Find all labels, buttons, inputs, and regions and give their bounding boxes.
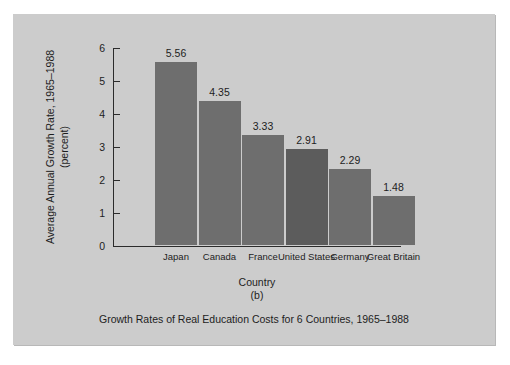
y-axis-tick-mark (114, 246, 120, 247)
bar: 1.48 (373, 196, 415, 245)
y-axis-title-line2: (percent) (58, 126, 70, 168)
panel-letter: (b) (113, 289, 401, 301)
bar-value-label: 2.29 (340, 154, 360, 166)
bar: 2.29 (329, 169, 371, 245)
y-axis-title: Average Annual Growth Rate, 1965–1988 (p… (37, 48, 77, 246)
plot-area: 0123456 5.564.353.332.912.291.48 JapanCa… (113, 48, 401, 246)
bar: 4.35 (199, 101, 241, 245)
y-axis-tick-mark (114, 48, 120, 49)
bar-value-label: 1.48 (383, 181, 403, 193)
bar-value-label: 5.56 (166, 47, 186, 59)
x-axis-line (113, 246, 401, 247)
y-axis-tick-label: 0 (99, 240, 105, 252)
y-axis-tick-mark (114, 180, 120, 181)
y-axis-tick-mark (114, 213, 120, 214)
y-axis-title-line1: Average Annual Growth Rate, 1965–1988 (44, 50, 56, 244)
y-axis-tick-label: 2 (99, 174, 105, 186)
y-axis-tick-mark (114, 147, 120, 148)
y-axis-tick-label: 5 (99, 75, 105, 87)
x-axis-title: Country (113, 275, 401, 289)
bar: 5.56 (155, 62, 197, 245)
bar: 2.91 (286, 149, 328, 245)
bar-value-label: 2.91 (296, 134, 316, 146)
bar: 3.33 (242, 135, 284, 245)
figure-panel: Average Annual Growth Rate, 1965–1988 (p… (13, 14, 495, 345)
bar-value-label: 3.33 (253, 120, 273, 132)
y-axis-tick-label: 6 (99, 42, 105, 54)
bar-value-label: 4.35 (209, 86, 229, 98)
figure-caption: Growth Rates of Real Education Costs for… (13, 313, 495, 325)
x-axis-tick-label: Great Britain (364, 251, 424, 263)
y-axis-tick-label: 1 (99, 207, 105, 219)
y-axis-tick-label: 4 (99, 108, 105, 120)
y-axis-tick-mark (114, 114, 120, 115)
y-axis-tick-label: 3 (99, 141, 105, 153)
y-axis-tick-mark (114, 81, 120, 82)
